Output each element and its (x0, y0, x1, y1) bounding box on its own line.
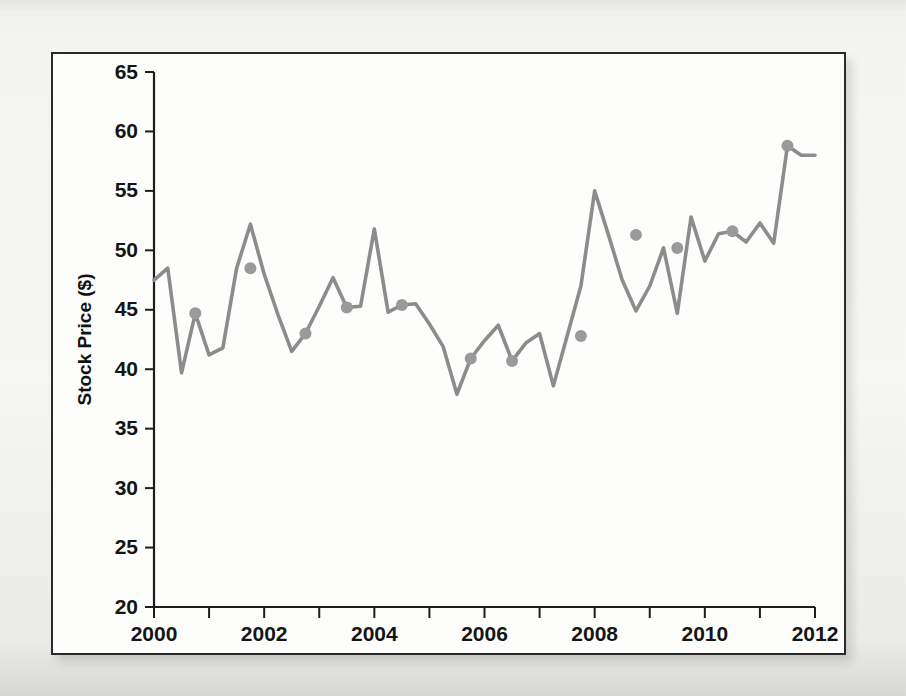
y-axis-title-label: Stock Price ($) (74, 274, 95, 406)
y-tick-label: 40 (115, 357, 138, 380)
series-data-point (299, 328, 311, 340)
chart-canvas: 20253035404550556065 2000200220042006200… (53, 54, 844, 653)
x-tick-label: 2010 (681, 622, 728, 645)
y-tick-label: 55 (115, 178, 139, 201)
series-data-point (341, 301, 353, 313)
series-data-point (630, 229, 642, 241)
series-data-point (189, 307, 201, 319)
figure-card: 20253035404550556065 2000200220042006200… (51, 52, 846, 655)
x-tick-label: 2008 (571, 622, 618, 645)
series-data-point (465, 353, 477, 365)
series-data-point (575, 330, 587, 342)
y-tick-label: 35 (115, 416, 139, 439)
series-data-point (396, 299, 408, 311)
x-tick-label: 2012 (792, 622, 839, 645)
series-data-point (671, 242, 683, 254)
x-axis: 2000200220042006200820102012 (131, 607, 839, 645)
series-data-point (506, 355, 518, 367)
series-data-point (244, 262, 256, 274)
y-axis: 20253035404550556065 (115, 60, 154, 618)
series-data-point (781, 140, 793, 152)
y-tick-label: 45 (115, 297, 139, 320)
x-tick-label: 2000 (131, 622, 178, 645)
y-axis-title: Stock Price ($) (74, 274, 95, 406)
y-tick-label: 50 (115, 238, 138, 261)
y-tick-label: 60 (115, 119, 138, 142)
series-data-point (726, 225, 738, 237)
y-tick-label: 20 (115, 595, 138, 618)
y-tick-label: 30 (115, 476, 138, 499)
x-tick-label: 2006 (461, 622, 508, 645)
x-tick-label: 2002 (241, 622, 288, 645)
line-chart: 20253035404550556065 2000200220042006200… (53, 54, 844, 653)
y-tick-label: 65 (115, 60, 139, 83)
data-series-stock-price (154, 140, 815, 394)
x-tick-label: 2004 (351, 622, 398, 645)
y-tick-label: 25 (115, 535, 139, 558)
